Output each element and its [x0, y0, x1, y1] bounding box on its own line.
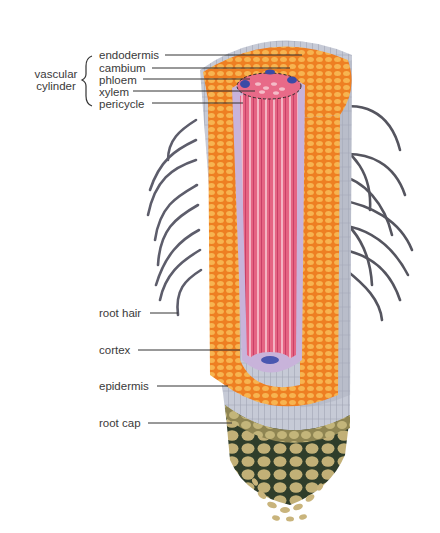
vascular-cylinder-label: vascular cylinder — [28, 68, 84, 92]
label-endodermis: endodermis — [99, 49, 159, 61]
vascular-cylinder-label-line1: vascular — [28, 68, 84, 80]
phloem-patch — [265, 70, 275, 75]
label-root-hair: root hair — [99, 307, 141, 319]
phloem-patch — [240, 80, 250, 88]
label-xylem: xylem — [99, 86, 129, 98]
root-hairs-left — [148, 120, 201, 315]
label-pericycle: pericycle — [99, 98, 144, 110]
root-diagram: vascular cylinder endodermis cambium phl… — [0, 0, 440, 533]
xylem-core — [240, 84, 298, 363]
label-cambium: cambium — [99, 62, 146, 74]
vascular-cylinder-label-line2: cylinder — [28, 80, 84, 92]
label-phloem: phloem — [99, 74, 137, 86]
label-root-cap: root cap — [99, 417, 141, 429]
label-cortex: cortex — [99, 344, 130, 356]
phloem-patch — [287, 77, 297, 84]
label-epidermis: epidermis — [99, 380, 149, 392]
